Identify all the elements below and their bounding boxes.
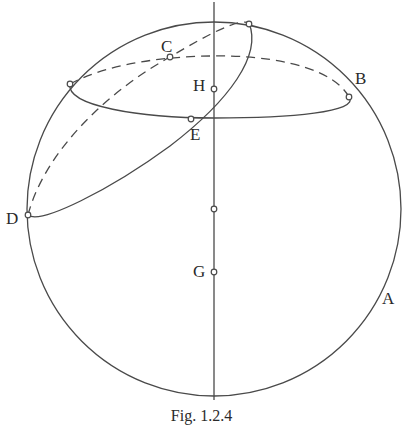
figure-caption: Fig. 1.2.4	[0, 407, 403, 425]
label-G: G	[193, 263, 205, 280]
point-D	[25, 212, 31, 218]
point-H	[211, 86, 217, 92]
label-C: C	[161, 38, 172, 55]
label-D: D	[6, 210, 18, 227]
horizontal-circle-front	[70, 84, 350, 118]
label-E: E	[190, 126, 200, 143]
horizontal-circle-back	[70, 56, 349, 97]
point-B	[346, 94, 352, 100]
label-B: B	[355, 70, 366, 87]
point-left-horizontal	[67, 81, 73, 87]
label-A: A	[382, 290, 394, 307]
point-center	[211, 206, 217, 212]
point-E	[188, 116, 194, 122]
point-G	[211, 269, 217, 275]
label-H: H	[193, 77, 205, 94]
tilted-circle-front	[28, 23, 252, 217]
point-top-tilted	[246, 21, 252, 27]
